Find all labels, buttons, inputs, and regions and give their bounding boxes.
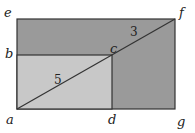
label-d: d [108,112,116,127]
label-c: c [110,41,118,56]
label-a: a [6,112,14,127]
similar-rectangles-diagram: e b a d g c f 5 3 [0,0,195,133]
length-cf: 3 [130,25,138,39]
label-f: f [178,5,186,20]
label-g: g [177,114,185,129]
label-b: b [5,46,13,61]
label-e: e [4,5,12,20]
length-ac: 5 [54,73,62,87]
